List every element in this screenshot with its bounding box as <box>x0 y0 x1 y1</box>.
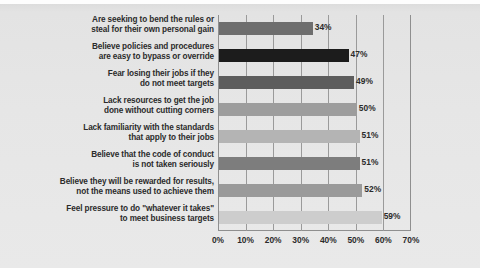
category-label: Fear losing their jobs if theydo not mee… <box>0 69 214 89</box>
bar <box>219 157 360 170</box>
bar-row: Believe policies and proceduresare easy … <box>0 42 480 69</box>
bar-value-label: 47% <box>351 48 368 61</box>
x-tick-label: 60% <box>375 234 392 246</box>
category-label-line1: Are seeking to bend the rules or <box>92 15 214 24</box>
category-label-line2: that apply to their jobs <box>0 133 214 143</box>
category-label: Feel pressure to do "whatever it takes"t… <box>0 204 214 224</box>
bar-value-label: 34% <box>315 21 332 34</box>
category-label: Lack resources to get the jobdone withou… <box>0 96 214 116</box>
bar <box>219 130 360 143</box>
category-label-line2: to meet business targets <box>0 214 214 224</box>
x-tick-label: 10% <box>237 234 254 246</box>
bar <box>219 184 362 197</box>
bar-row: Lack familiarity with the standardsthat … <box>0 123 480 150</box>
bar-row: Believe that the code of conductis not t… <box>0 150 480 177</box>
bar <box>219 211 382 224</box>
bar-row: Fear losing their jobs if theydo not mee… <box>0 69 480 96</box>
bar-value-label: 49% <box>356 75 373 88</box>
category-label-line1: Believe that the code of conduct <box>91 150 214 159</box>
bar <box>219 103 357 116</box>
bar-value-label: 50% <box>359 102 376 115</box>
x-tick-label: 20% <box>265 234 282 246</box>
category-label: Believe that the code of conductis not t… <box>0 150 214 170</box>
category-label-line1: Believe policies and procedures <box>92 42 214 51</box>
category-label-line1: Lack familiarity with the standards <box>83 123 214 132</box>
category-label: Are seeking to bend the rules orsteal fo… <box>0 15 214 35</box>
bar <box>219 76 354 89</box>
bar-value-label: 59% <box>384 210 401 223</box>
bar-value-label: 51% <box>362 156 379 169</box>
category-label-line2: steal for their own personal gain <box>0 25 214 35</box>
category-label-line1: Fear losing their jobs if they <box>108 69 214 78</box>
x-tick-label: 30% <box>292 234 309 246</box>
x-tick-label: 70% <box>403 234 420 246</box>
bar-row: Lack resources to get the jobdone withou… <box>0 96 480 123</box>
bar-value-label: 52% <box>364 183 381 196</box>
category-label-line2: not the means used to achieve them <box>0 187 214 197</box>
category-label-line1: Lack resources to get the job <box>103 96 214 105</box>
bar-row: Believe they will be rewarded for result… <box>0 177 480 204</box>
category-label-line2: are easy to bypass or override <box>0 52 214 62</box>
category-label: Believe they will be rewarded for result… <box>0 177 214 197</box>
category-label-line2: is not taken seriously <box>0 160 214 170</box>
category-label-line2: done without cutting corners <box>0 106 214 116</box>
category-label-line1: Believe they will be rewarded for result… <box>60 177 214 186</box>
horizontal-bar-chart: Are seeking to bend the rules orsteal fo… <box>0 0 480 268</box>
bar-row: Are seeking to bend the rules orsteal fo… <box>0 15 480 42</box>
category-label-line2: do not meet targets <box>0 79 214 89</box>
x-tick-label: 40% <box>320 234 337 246</box>
chart-page: Are seeking to bend the rules orsteal fo… <box>0 0 480 268</box>
category-label-line1: Feel pressure to do "whatever it takes" <box>66 204 214 213</box>
category-label: Believe policies and proceduresare easy … <box>0 42 214 62</box>
x-tick-label: 50% <box>347 234 364 246</box>
x-tick-label: 0% <box>212 234 224 246</box>
bar-row: Feel pressure to do "whatever it takes"t… <box>0 204 480 231</box>
bar-value-label: 51% <box>362 129 379 142</box>
x-axis-tick-labels: 0%10%20%30%40%50%60%70% <box>218 234 412 248</box>
bar <box>219 49 349 62</box>
bar <box>219 22 313 35</box>
category-label: Lack familiarity with the standardsthat … <box>0 123 214 143</box>
